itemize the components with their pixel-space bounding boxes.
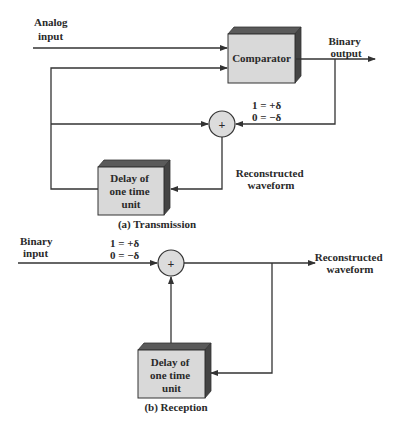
transmission-mapping-label: 1 = +δ 0 = −δ (252, 99, 284, 123)
reception-diagram: Binary input 1 = +δ 0 = −δ + Reconstruct… (18, 235, 385, 414)
comparator-label: Comparator (232, 52, 291, 64)
reception-mapping-label: 1 = +δ 0 = −δ (110, 237, 142, 261)
transmission-reconstructed-label: Reconstructed waveform (236, 167, 307, 191)
output-to-delay-line (211, 263, 272, 373)
reception-summing-junction: + (158, 250, 184, 276)
reception-delay-block: Delay of one time unit (138, 343, 211, 398)
reception-caption: (b) Reception (144, 401, 207, 414)
analog-input-label: Analog input (34, 16, 70, 42)
comparator-top-face (228, 27, 301, 34)
transmission-caption: (a) Transmission (118, 218, 196, 231)
transmission-diagram: Analog input Comparator Binary output 1 … (33, 16, 375, 231)
plus-symbol: + (168, 257, 175, 271)
plus-symbol: + (219, 118, 226, 132)
comparator-side-face (295, 27, 301, 83)
reception-reconstructed-label: Reconstructed waveform (315, 251, 386, 275)
transmission-delay-block: Delay of one time unit (98, 160, 170, 215)
comparator-block: Comparator (228, 27, 301, 83)
summer-to-delay-line (171, 137, 222, 189)
binary-input-label: Binary input (20, 235, 55, 259)
binary-output-label: Binary output (328, 35, 363, 59)
delta-modulation-diagram: Analog input Comparator Binary output 1 … (0, 0, 398, 427)
transmission-summing-junction: + (209, 111, 235, 137)
